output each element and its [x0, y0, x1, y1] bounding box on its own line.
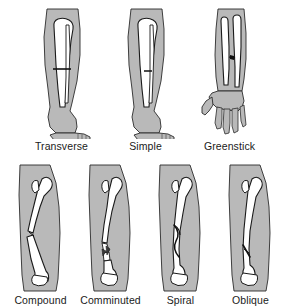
fracture-item-oblique: Oblique — [216, 156, 286, 306]
fracture-row-bottom: Compound Comminuted — [0, 156, 291, 306]
foot-silhouette — [134, 133, 174, 139]
oblique-fracture-illustration — [216, 163, 286, 293]
fracture-label-simple: Simple — [129, 140, 162, 152]
greater-trochanter — [101, 180, 108, 193]
simple-fracture-illustration — [104, 7, 188, 139]
fracture-label-spiral: Spiral — [167, 294, 194, 306]
comminuted-fracture-illustration — [76, 163, 146, 293]
spiral-fracture-illustration — [146, 163, 216, 293]
greater-trochanter — [241, 180, 248, 193]
fracture-label-transverse: Transverse — [35, 140, 88, 152]
greater-trochanter — [171, 180, 178, 193]
fracture-item-greenstick: Greenstick — [188, 4, 272, 152]
fracture-item-comminuted: Comminuted — [76, 156, 146, 306]
greater-trochanter — [31, 180, 38, 193]
femoral-condyles — [170, 273, 187, 286]
greenstick-fracture-illustration — [188, 7, 272, 139]
thumb — [202, 97, 213, 115]
femoral-condyles — [100, 273, 117, 286]
femoral-condyles — [240, 273, 257, 286]
fracture-item-transverse: Transverse — [20, 4, 104, 152]
fracture-label-oblique: Oblique — [232, 294, 269, 306]
fracture-item-compound: Compound — [6, 156, 76, 306]
compound-fracture-illustration — [6, 163, 76, 293]
fracture-label-compound: Compound — [14, 294, 66, 306]
transverse-fracture-illustration — [20, 7, 104, 139]
fracture-types-figure: Transverse Simple — [0, 0, 291, 306]
foot-silhouette — [50, 133, 90, 139]
fracture-item-spiral: Spiral — [146, 156, 216, 306]
femoral-condyles — [31, 275, 47, 286]
fracture-label-comminuted: Comminuted — [80, 294, 141, 306]
palm-silhouette — [209, 91, 244, 111]
fracture-row-top: Transverse Simple — [0, 4, 291, 152]
fracture-label-greenstick: Greenstick — [204, 140, 255, 152]
fracture-item-simple: Simple — [104, 4, 188, 152]
